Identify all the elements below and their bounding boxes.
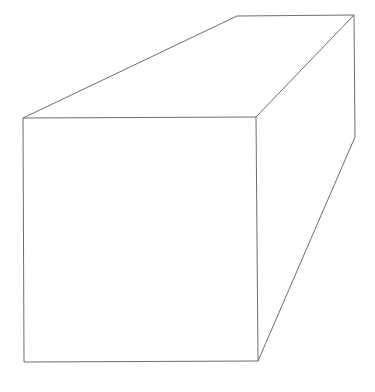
prism-drawing (0, 0, 375, 392)
top-face (23, 15, 354, 118)
prism-diagram (0, 0, 375, 392)
front-face (23, 117, 258, 362)
right-face (258, 15, 355, 361)
